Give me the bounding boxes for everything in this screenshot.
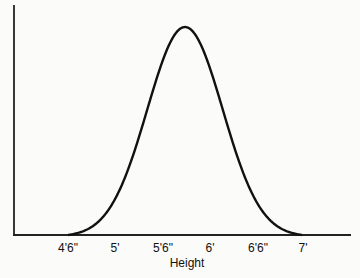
tick-label: 6'6" [248, 241, 268, 255]
tick-label: 4'6" [58, 241, 78, 255]
tick-label: 5' [111, 241, 120, 255]
tick-label: 6' [206, 241, 215, 255]
bell-curve [68, 27, 302, 235]
tick-label: 7' [299, 241, 308, 255]
tick-label: 5'6" [153, 241, 173, 255]
chart: 4'6" 5' 5'6" 6' 6'6" 7' Height [0, 0, 360, 278]
x-tick-labels: 4'6" 5' 5'6" 6' 6'6" 7' [58, 241, 307, 255]
x-axis-label: Height [170, 256, 205, 270]
